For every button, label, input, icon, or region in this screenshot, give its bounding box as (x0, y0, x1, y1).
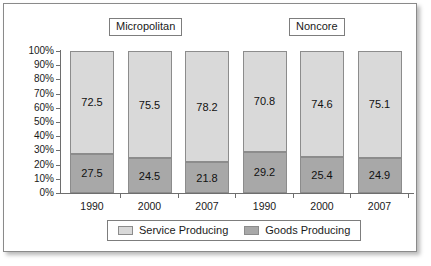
y-tick-label: 80% (34, 74, 54, 84)
y-tick-mark (56, 94, 60, 95)
bar-value-goods: 24.9 (369, 169, 390, 181)
bar-value-service: 75.5 (139, 99, 160, 111)
x-tick-label: 2007 (185, 200, 229, 212)
bar-segment-service: 74.6 (300, 51, 344, 157)
bar-segment-service: 70.8 (243, 51, 287, 152)
y-tick-mark (56, 51, 60, 52)
y-tick-label: 30% (34, 145, 54, 155)
legend-label-goods: Goods Producing (265, 224, 350, 236)
x-tick-label: 2000 (128, 200, 172, 212)
bar-column: 74.625.4 (300, 51, 344, 193)
legend-label-service: Service Producing (139, 224, 228, 236)
legend-item-goods: Goods Producing (244, 224, 350, 236)
bar-value-goods: 21.8 (196, 172, 217, 184)
bar-segment-service: 78.2 (185, 51, 229, 162)
bar-value-goods: 29.2 (254, 166, 275, 178)
y-tick-mark (56, 108, 60, 109)
x-tick-label: 1990 (243, 200, 287, 212)
y-tick-mark (56, 179, 60, 180)
bar-value-goods: 25.4 (311, 169, 332, 181)
plot-area: 72.527.575.524.578.221.870.829.274.625.4… (61, 51, 402, 193)
bar-value-goods: 27.5 (81, 167, 102, 179)
y-tick-label: 70% (34, 89, 54, 99)
y-axis: 100%90%80%70%60%50%40%30%20%10%0% (4, 4, 54, 204)
x-tick-label: 1990 (70, 200, 114, 212)
bar-value-goods: 24.5 (139, 170, 160, 182)
legend-swatch-service-icon (118, 226, 133, 235)
y-tick-mark (56, 136, 60, 137)
x-tick-label: 2000 (300, 200, 344, 212)
group-label-noncore: Noncore (289, 18, 345, 36)
bar-segment-service: 75.1 (358, 51, 402, 158)
bar-segment-service: 75.5 (128, 51, 172, 158)
y-tick-mark (56, 79, 60, 80)
bar-segment-goods: 29.2 (243, 152, 287, 193)
y-tick-label: 20% (34, 160, 54, 170)
y-tick-label: 100% (28, 46, 54, 56)
y-tick-label: 0% (40, 188, 54, 198)
x-tick-mark (235, 194, 236, 198)
bar-segment-service: 72.5 (70, 51, 114, 154)
bar-value-service: 72.5 (81, 96, 102, 108)
x-tick-mark (178, 194, 179, 198)
bar-column: 75.524.5 (128, 51, 172, 193)
legend-swatch-goods-icon (244, 226, 259, 235)
bar-value-service: 75.1 (369, 98, 390, 110)
legend-item-service: Service Producing (118, 224, 228, 236)
x-tick-mark (408, 194, 409, 198)
x-tick-mark (120, 194, 121, 198)
bar-value-service: 78.2 (196, 101, 217, 113)
x-tick-label: 2007 (358, 200, 402, 212)
y-tick-label: 10% (34, 174, 54, 184)
y-tick-mark (56, 193, 60, 194)
y-tick-label: 90% (34, 60, 54, 70)
bar-column: 78.221.8 (185, 51, 229, 193)
y-tick-label: 40% (34, 131, 54, 141)
bar-value-service: 74.6 (311, 98, 332, 110)
y-tick-label: 50% (34, 117, 54, 127)
bar-segment-goods: 21.8 (185, 162, 229, 193)
group-label-micropolitan: Micropolitan (109, 18, 182, 36)
x-tick-mark (293, 194, 294, 198)
x-tick-mark (350, 194, 351, 198)
y-tick-mark (56, 150, 60, 151)
y-tick-mark (56, 122, 60, 123)
chart-frame: Micropolitan Noncore 100%90%80%70%60%50%… (3, 3, 417, 252)
bar-value-service: 70.8 (254, 95, 275, 107)
bar-column: 70.829.2 (243, 51, 287, 193)
x-axis-line (60, 193, 414, 194)
y-tick-label: 60% (34, 103, 54, 113)
bar-column: 75.124.9 (358, 51, 402, 193)
chart-legend: Service Producing Goods Producing (107, 220, 361, 241)
y-tick-mark (56, 165, 60, 166)
bar-segment-goods: 24.5 (128, 158, 172, 193)
y-tick-mark (56, 65, 60, 66)
bar-segment-goods: 24.9 (358, 158, 402, 193)
bar-column: 72.527.5 (70, 51, 114, 193)
bar-segment-goods: 25.4 (300, 157, 344, 193)
bar-segment-goods: 27.5 (70, 154, 114, 193)
